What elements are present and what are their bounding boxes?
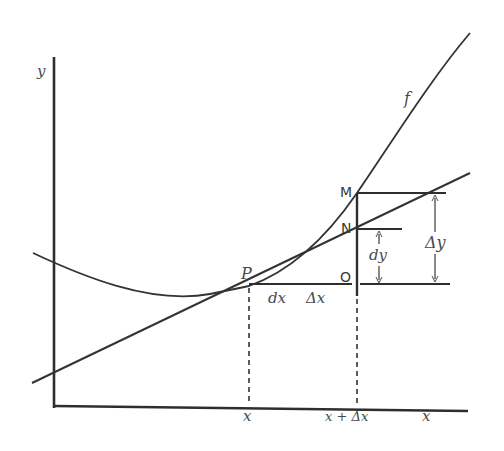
x-axis-label: x (422, 407, 431, 425)
x-axis (54, 406, 468, 411)
label-delta-x: Δx (305, 289, 326, 307)
differential-diagram: y f M N O P dx Δx dy Δy x x + Δx x (0, 0, 504, 451)
point-label-N: N (341, 220, 351, 236)
label-dx: dx (268, 289, 287, 307)
y-axis-label: y (36, 62, 46, 80)
point-label-M: M (340, 184, 352, 200)
curve-f (33, 33, 470, 296)
point-label-O: O (340, 269, 351, 285)
curve-label-f: f (403, 89, 413, 108)
label-dy: dy (369, 246, 388, 264)
tick-label-x: x (243, 407, 252, 425)
tick-label-x-plus-dx: x + Δx (325, 409, 369, 424)
label-delta-y: Δy (424, 233, 447, 252)
point-label-P: P (240, 264, 252, 283)
